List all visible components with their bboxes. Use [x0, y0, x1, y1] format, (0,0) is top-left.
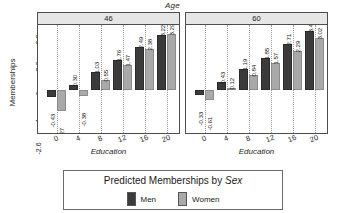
bar-men[interactable] — [91, 72, 100, 90]
x-tick-label: 16 — [282, 131, 302, 146]
bar-group: 2.492.38 — [134, 25, 156, 133]
bar-men[interactable] — [239, 69, 248, 89]
bar-women[interactable] — [167, 34, 176, 90]
x-tick-label: 4 — [68, 131, 88, 146]
legend-swatch-men-icon — [127, 192, 136, 206]
x-tick-label: 20 — [156, 131, 176, 146]
bar-value-label: 0.30 — [70, 60, 77, 86]
bar-value-label: 0.12 — [228, 63, 235, 89]
bar-men[interactable] — [305, 31, 314, 90]
bar-value-label: 3.29 — [168, 25, 175, 35]
legend-item-women[interactable]: Women — [178, 192, 219, 206]
bar-value-label: 0.84 — [250, 51, 257, 77]
bar-men[interactable] — [195, 90, 204, 96]
bar-women[interactable] — [249, 75, 258, 89]
legend-label-women: Women — [192, 195, 219, 204]
x-tick-label: 8 — [90, 131, 110, 146]
bar-value-label: 3.47 — [306, 25, 313, 32]
bar-value-label: 2.29 — [294, 26, 301, 52]
legend-title-emphasis: Sex — [225, 175, 242, 186]
bar-women[interactable] — [271, 63, 280, 90]
bar-men[interactable] — [135, 47, 144, 89]
legend-label-men: Men — [141, 195, 157, 204]
bar-women[interactable] — [205, 90, 214, 100]
bar-value-label: 1.47 — [124, 40, 131, 66]
bar-men[interactable] — [47, 90, 56, 97]
bar-value-label: 1.19 — [240, 45, 247, 71]
legend: Predicted Memberships by Sex Men Women — [63, 170, 283, 210]
legend-item-men[interactable]: Men — [127, 192, 157, 206]
bar-value-label: 1.76 — [114, 35, 121, 61]
y-axis-title: Memberships — [8, 38, 17, 128]
x-tick-label: 4 — [216, 131, 236, 146]
bar-women[interactable] — [315, 38, 324, 89]
x-tick-label: 12 — [112, 131, 132, 146]
legend-swatch-women-icon — [178, 192, 187, 206]
legend-items: Men Women — [64, 192, 282, 206]
bar-group: 1.851.57 — [260, 25, 282, 133]
bar-women[interactable] — [123, 65, 132, 90]
x-tick-label: 0 — [194, 131, 214, 146]
bar-value-label: -0.33 — [196, 100, 203, 126]
bar-value-label: -0.43 — [48, 102, 55, 128]
bar-women[interactable] — [79, 90, 88, 96]
bar-group: 2.712.29 — [282, 25, 304, 133]
panel-60: 60 -0.33-0.610.430.121.190.841.851.572.7… — [185, 12, 328, 134]
legend-title: Predicted Memberships by Sex — [64, 175, 282, 186]
x-tick-label: 16 — [134, 131, 154, 146]
x-tick-label: 8 — [238, 131, 258, 146]
bar-group: -0.43-1.27 — [46, 25, 68, 133]
panel-header-60: 60 — [185, 12, 328, 25]
bar-women[interactable] — [293, 51, 302, 90]
x-tick-label: 20 — [304, 131, 324, 146]
x-tick-label: 12 — [260, 131, 280, 146]
y-axis-ticks: -2.6-1.62.23.8 — [20, 28, 38, 132]
bar-group: 1.190.84 — [238, 25, 260, 133]
x-axis-title-60: Education — [185, 147, 328, 156]
bar-men[interactable] — [157, 35, 166, 90]
bar-women[interactable] — [57, 90, 66, 112]
panel-46: 46 -0.43-1.270.30-0.381.030.551.761.472.… — [37, 12, 180, 134]
bar-value-label: 1.85 — [262, 34, 269, 60]
bar-group: 0.30-0.38 — [68, 25, 90, 133]
plot-area-46: -0.43-1.270.30-0.381.030.551.761.472.492… — [37, 25, 180, 134]
bar-group: 1.761.47 — [112, 25, 134, 133]
bar-value-label: -0.61 — [206, 105, 213, 131]
bar-group: -0.33-0.61 — [194, 25, 216, 133]
bar-group: 3.473.02 — [304, 25, 326, 133]
bar-value-label: 0.43 — [218, 58, 225, 84]
bar-value-label: -0.38 — [80, 101, 87, 127]
bar-value-label: 1.57 — [272, 38, 279, 64]
panel-header-46: 46 — [37, 12, 180, 25]
bar-men[interactable] — [261, 58, 270, 90]
bar-value-label: 2.71 — [284, 25, 291, 45]
bar-men[interactable] — [113, 60, 122, 90]
x-axis-46: Education 048121620 — [37, 134, 180, 156]
bar-value-label: 2.49 — [136, 25, 143, 49]
bar-value-label: 2.38 — [146, 25, 153, 51]
bar-group: 0.430.12 — [216, 25, 238, 133]
bar-women[interactable] — [101, 80, 110, 89]
plot-area-60: -0.33-0.610.430.121.190.841.851.572.712.… — [185, 25, 328, 134]
bar-value-label: 1.03 — [92, 48, 99, 74]
bar-value-label: 0.55 — [102, 56, 109, 82]
x-axis-title-46: Education — [37, 147, 180, 156]
bar-group: 3.223.29 — [156, 25, 178, 133]
bar-group: 1.030.55 — [90, 25, 112, 133]
chart-supertitle: Age — [0, 1, 345, 10]
bar-value-label: 3.02 — [316, 25, 323, 40]
bar-women[interactable] — [145, 49, 154, 90]
bar-men[interactable] — [283, 44, 292, 90]
bar-value-label: 3.22 — [158, 25, 165, 36]
chart-root: Age Memberships -2.6-1.62.23.8 46 -0.43-… — [0, 0, 345, 213]
x-tick-label: 0 — [46, 131, 66, 146]
legend-title-prefix: Predicted Memberships by — [104, 175, 225, 186]
x-axis-60: Education 048121620 — [185, 134, 328, 156]
